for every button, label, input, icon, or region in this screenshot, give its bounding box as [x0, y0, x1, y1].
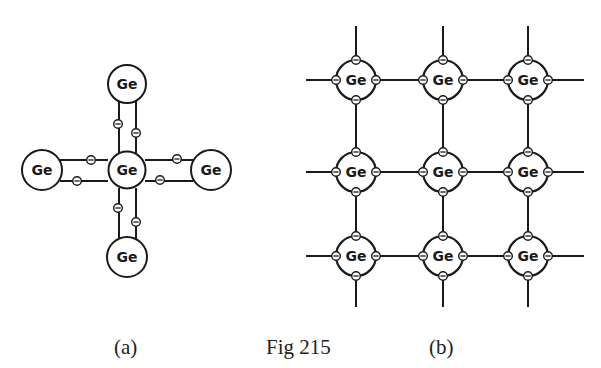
electron-icon: [352, 56, 361, 65]
lattice-atom: Ge: [504, 56, 553, 105]
lattice-atom: Ge: [504, 232, 553, 281]
svg-text:Ge: Ge: [433, 72, 454, 88]
electron-icon: [352, 232, 361, 241]
electron-icon: [372, 252, 381, 261]
label-b: (b): [429, 335, 454, 360]
svg-text:Ge: Ge: [32, 162, 53, 178]
lattice-atom: Ge: [332, 148, 381, 197]
electron-icon: [439, 96, 448, 105]
electron-icon: [459, 252, 468, 261]
electron-icon: [419, 76, 428, 85]
electron-icon: [419, 168, 428, 177]
electron-icon: [439, 148, 448, 157]
electron-icon: [459, 168, 468, 177]
lattice-atom: Ge: [504, 148, 553, 197]
electron-icon: [439, 56, 448, 65]
electron-icon: [439, 188, 448, 197]
electron-icon: [332, 168, 341, 177]
electron-icon: [372, 168, 381, 177]
svg-text:Ge: Ge: [433, 164, 454, 180]
electron-icon: [459, 76, 468, 85]
svg-text:Ge: Ge: [346, 248, 367, 264]
electron-icon: [439, 272, 448, 281]
electron-icon: [352, 188, 361, 197]
electron-icon: [544, 252, 553, 261]
figure-caption: Fig 215: [266, 335, 331, 360]
electron-icon: [504, 252, 513, 261]
electron-icon: [544, 76, 553, 85]
svg-text:Ge: Ge: [201, 162, 222, 178]
lattice-atom: Ge: [332, 232, 381, 281]
svg-text:Ge: Ge: [117, 162, 138, 178]
electron-icon: [524, 188, 533, 197]
lattice-atom: Ge: [419, 148, 468, 197]
electron-icon: [504, 168, 513, 177]
electron-icon: [524, 96, 533, 105]
svg-text:Ge: Ge: [117, 76, 138, 92]
lattice-atom: Ge: [419, 56, 468, 105]
label-a: (a): [114, 335, 137, 360]
electron-icon: [524, 272, 533, 281]
electron-icon: [332, 76, 341, 85]
electron-icon: [332, 252, 341, 261]
crystal-lattice-figure: Ge Ge Ge Ge Ge GeGeGeGeGeGeGeGeGe: [0, 0, 601, 368]
lattice-atom: Ge: [419, 232, 468, 281]
electron-icon: [524, 232, 533, 241]
svg-text:Ge: Ge: [346, 164, 367, 180]
svg-text:Ge: Ge: [433, 248, 454, 264]
svg-text:Ge: Ge: [518, 164, 539, 180]
diagram-b: GeGeGeGeGeGeGeGeGe: [306, 26, 584, 307]
electron-icon: [372, 76, 381, 85]
svg-text:Ge: Ge: [117, 249, 138, 265]
lattice-atom: Ge: [332, 56, 381, 105]
electron-icon: [352, 148, 361, 157]
svg-text:Ge: Ge: [346, 72, 367, 88]
electron-icon: [419, 252, 428, 261]
svg-text:Ge: Ge: [518, 248, 539, 264]
electron-icon: [439, 232, 448, 241]
electron-icon: [352, 272, 361, 281]
electron-icon: [352, 96, 361, 105]
electron-icon: [544, 168, 553, 177]
electron-icon: [524, 56, 533, 65]
electron-icon: [524, 148, 533, 157]
electron-icon: [504, 76, 513, 85]
svg-text:Ge: Ge: [518, 72, 539, 88]
